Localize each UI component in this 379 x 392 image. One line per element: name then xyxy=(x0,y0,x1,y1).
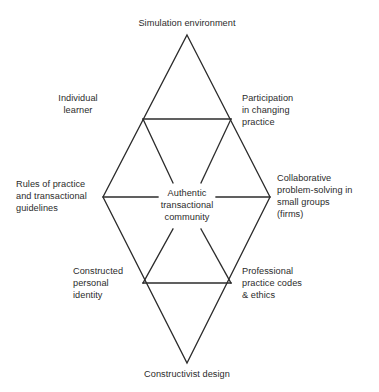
upper-inner-left-line xyxy=(143,119,173,183)
lower-inner-right-line xyxy=(201,229,231,283)
diagram-canvas: Simulation environment Individual learne… xyxy=(0,0,379,392)
upper-inner-right-line xyxy=(201,119,231,183)
node-label-participation-in-changing-practice: Participation in changing practice xyxy=(242,92,362,128)
node-label-constructed-personal-identity: Constructed personal identity xyxy=(73,265,149,301)
node-label-constructivist-design: Constructivist design xyxy=(88,368,286,380)
node-label-simulation-environment: Simulation environment xyxy=(88,17,286,29)
node-label-authentic-transactional-community: Authentic transactional community xyxy=(137,187,237,223)
node-label-professional-practice-codes: Professional practice codes & ethics xyxy=(242,265,352,301)
node-label-individual-learner: Individual learner xyxy=(40,92,116,116)
node-label-rules-of-practice: Rules of practice and transactional guid… xyxy=(16,178,104,214)
node-label-collaborative-problem-solving: Collaborative problem-solving in small g… xyxy=(277,172,377,220)
